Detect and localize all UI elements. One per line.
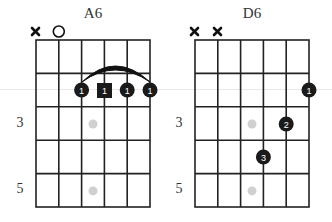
finger-number: 1 xyxy=(79,86,84,96)
fretboard-grid: 1 1 1 1 xyxy=(0,0,166,222)
finger-number: 1 xyxy=(125,86,130,96)
mute-x-icon xyxy=(191,28,198,35)
fretboard-grid: 1 2 3 xyxy=(159,0,325,222)
open-string-icon xyxy=(53,26,64,37)
chord-diagram-d6: D6 3 5 1 2 3 xyxy=(159,0,325,222)
finger-number: 3 xyxy=(261,153,266,163)
chord-diagram-a6: A6 3 5 1 1 1 xyxy=(0,0,166,222)
finger-number: 1 xyxy=(306,86,311,96)
inlay-dot-icon xyxy=(248,186,257,195)
inlay-dot-icon xyxy=(89,120,98,129)
finger-number: 1 xyxy=(102,86,107,96)
inlay-dot-icon xyxy=(248,120,257,129)
inlay-dot-icon xyxy=(89,186,98,195)
mute-x-icon xyxy=(214,28,221,35)
mute-x-icon xyxy=(32,28,39,35)
finger-number: 2 xyxy=(284,120,289,130)
finger-number: 1 xyxy=(147,86,152,96)
